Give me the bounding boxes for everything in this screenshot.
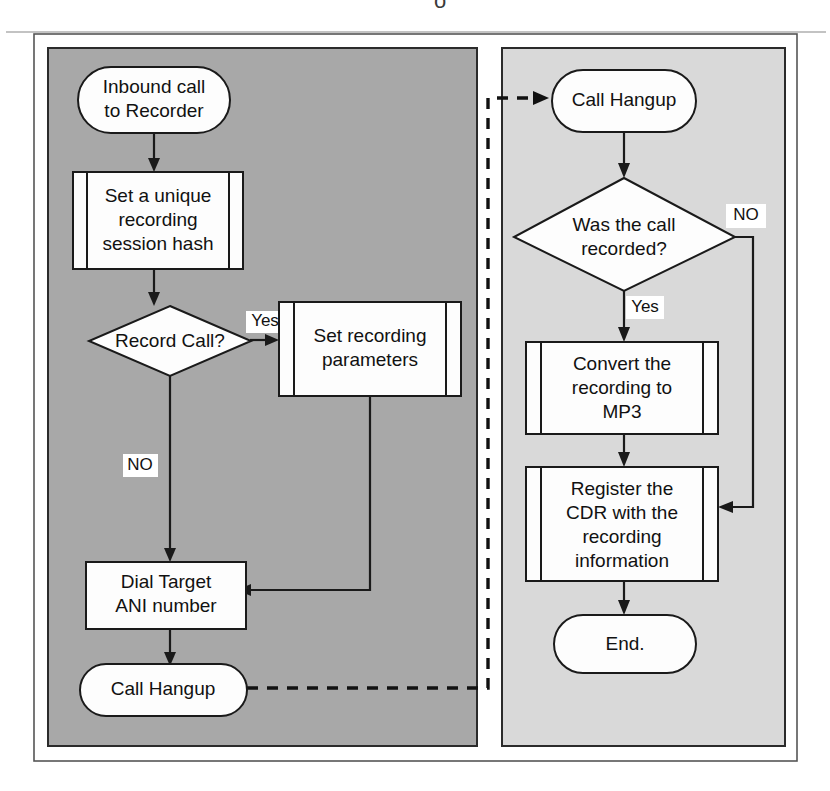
was-recorded-yes-label: Yes: [631, 297, 659, 316]
set-rec-params-label-line1: Set recording: [313, 325, 426, 346]
flowchart-diagram: o set recording parameters --> dial targ…: [0, 0, 830, 791]
session-hash-label-line3: session hash: [103, 233, 214, 254]
session-hash-label-line2: recording: [118, 209, 197, 230]
record-call-yes-label: Yes: [251, 311, 279, 330]
convert-mp3-label-line1: Convert the: [573, 353, 671, 374]
node-session-hash[interactable]: Set a unique recording session hash: [73, 172, 243, 269]
session-hash-label-line1: Set a unique: [105, 185, 212, 206]
register-cdr-label-line1: Register the: [571, 478, 673, 499]
was-call-recorded-label-line2: recorded?: [581, 238, 667, 259]
inbound-call-label-line2: to Recorder: [104, 100, 204, 121]
node-convert-mp3[interactable]: Convert the recording to MP3: [526, 342, 718, 434]
call-hangup-left-label: Call Hangup: [111, 678, 216, 699]
was-call-recorded-label-line1: Was the call: [573, 214, 676, 235]
node-call-hangup-left[interactable]: Call Hangup: [80, 664, 247, 716]
edge-label-was-recorded-yes: Yes: [626, 296, 664, 319]
convert-mp3-label-line2: recording to: [572, 377, 672, 398]
was-recorded-no-label: NO: [733, 205, 759, 224]
node-inbound-call[interactable]: Inbound call to Recorder: [78, 67, 230, 133]
edge-label-record-call-no: NO: [123, 454, 158, 477]
call-hangup-right-label: Call Hangup: [572, 89, 677, 110]
convert-mp3-label-line3: MP3: [602, 401, 641, 422]
dial-target-label-line2: ANI number: [115, 595, 217, 616]
inbound-call-label-line1: Inbound call: [103, 76, 205, 97]
end-label: End.: [605, 633, 644, 654]
record-call-label: Record Call?: [115, 330, 225, 351]
register-cdr-label-line4: information: [575, 550, 669, 571]
node-call-hangup-right[interactable]: Call Hangup: [552, 70, 696, 132]
register-cdr-label-line3: recording: [582, 526, 661, 547]
node-set-recording-parameters[interactable]: Set recording parameters: [279, 302, 461, 396]
register-cdr-label-line2: CDR with the: [566, 502, 678, 523]
edge-label-was-recorded-no: NO: [726, 204, 766, 228]
node-register-cdr[interactable]: Register the CDR with the recording info…: [526, 467, 718, 581]
dial-target-label-line1: Dial Target: [121, 571, 212, 592]
node-end[interactable]: End.: [554, 615, 696, 673]
flowchart-canvas: o set recording parameters --> dial targ…: [0, 0, 830, 791]
node-dial-target[interactable]: Dial Target ANI number: [86, 562, 246, 629]
cropped-caption-fragment: o: [434, 0, 446, 13]
record-call-no-label: NO: [127, 455, 153, 474]
set-rec-params-label-line2: parameters: [322, 349, 418, 370]
